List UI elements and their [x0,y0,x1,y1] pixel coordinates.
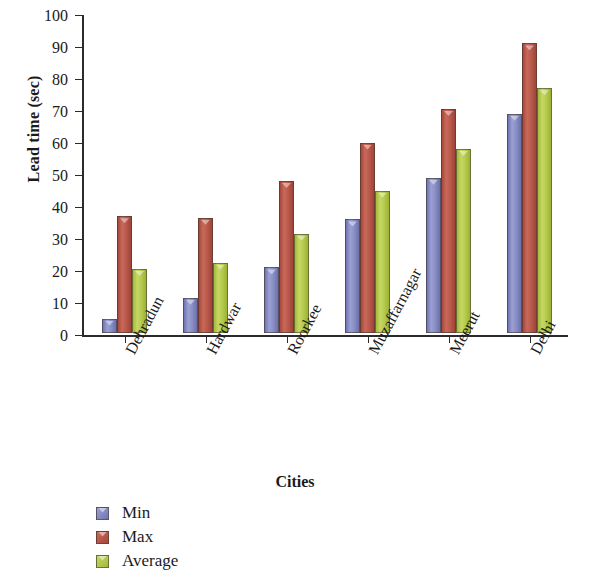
bar-average-delhi [537,88,552,333]
y-axis-tick-label: 100 [44,7,68,25]
legend-swatch-average-icon [96,555,109,568]
bar-max-hardwar [198,218,213,333]
bar-min-hardwar [183,298,198,333]
bar-group [426,13,471,333]
legend-label: Max [122,527,153,547]
y-axis-tick: 70 [75,111,83,112]
bar-max-dehradun [117,216,132,333]
legend-label: Average [122,551,178,571]
y-axis-tick: 10 [75,303,83,304]
legend-item-average[interactable]: Average [96,549,178,573]
bar-min-delhi [507,114,522,333]
y-axis-tick: 100 [75,15,83,16]
bar-max-meerut [441,109,456,333]
y-axis-tick: 0 [75,335,83,336]
bar-max-roorkee [279,181,294,333]
bar-max-muzaffarnagar [360,143,375,333]
y-axis-tick-label: 0 [60,327,68,345]
y-axis-tick: 40 [75,207,83,208]
y-axis-tick: 30 [75,239,83,240]
x-axis-title: Cities [0,473,590,491]
bar-group [183,13,228,333]
bar-group [102,13,147,333]
legend-swatch-max-icon [96,531,109,544]
y-axis-tick-label: 40 [52,199,68,217]
y-axis-tick-label: 20 [52,263,68,281]
y-axis-tick: 20 [75,271,83,272]
y-axis-tick-label: 70 [52,103,68,121]
bar-max-delhi [522,43,537,333]
x-axis-line [82,335,568,337]
y-axis-tick-label: 80 [52,71,68,89]
legend-item-max[interactable]: Max [96,525,178,549]
bar-group [345,13,390,333]
bar-chart-figure: Lead time (sec) 0102030405060708090100 D… [0,0,590,579]
y-axis-tick-label: 30 [52,231,68,249]
y-axis-tick: 50 [75,175,83,176]
bar-min-meerut [426,178,441,333]
bar-group [507,13,552,333]
y-axis-tick: 60 [75,143,83,144]
y-axis-tick: 90 [75,47,83,48]
bar-min-muzaffarnagar [345,219,360,333]
bar-group [264,13,309,333]
legend-swatch-min-icon [96,507,109,520]
y-axis-tick: 80 [75,79,83,80]
bar-min-dehradun [102,319,117,333]
y-axis-tick-label: 10 [52,295,68,313]
y-axis-title: Lead time (sec) [25,9,43,249]
legend-label: Min [122,503,150,523]
bar-average-meerut [456,149,471,333]
chart-legend: MinMaxAverage [96,501,178,573]
y-axis-tick-label: 60 [52,135,68,153]
legend-item-min[interactable]: Min [96,501,178,525]
bar-min-roorkee [264,267,279,333]
y-axis-tick-label: 50 [52,167,68,185]
y-axis-tick-label: 90 [52,39,68,57]
plot-area: 0102030405060708090100 DehradunHardwarRo… [82,15,568,335]
